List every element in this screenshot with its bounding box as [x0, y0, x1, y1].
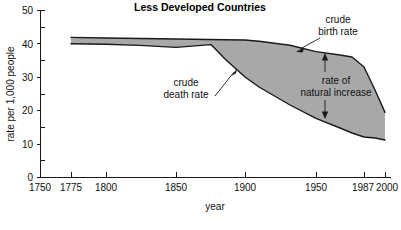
x-tick-label-1900: 1900: [234, 182, 257, 193]
x-tick-label-1800: 1800: [95, 182, 118, 193]
x-tick-label-1775: 1775: [60, 182, 83, 193]
crude-death-rate-label-line2: death rate: [163, 89, 208, 100]
y-tick-label-50: 50: [22, 5, 34, 16]
y-tick-label-10: 10: [22, 139, 34, 150]
less-developed-countries-chart: 0 10 20 30 40 50 1750 1775 1800 1850 190…: [0, 0, 401, 230]
rate-of-natural-increase-label-line1: rate of: [322, 75, 351, 86]
y-tick-label-20: 20: [22, 105, 34, 116]
y-tick-label-40: 40: [22, 39, 34, 50]
crude-birth-rate-label-line1: crude: [325, 14, 350, 25]
y-axis-title: rate per 1,000 people: [5, 46, 16, 142]
x-tick-label-1750: 1750: [29, 182, 52, 193]
x-tick-label-1987: 1987: [352, 182, 375, 193]
chart-title: Less Developed Countries: [134, 1, 266, 13]
rate-of-natural-increase-label-line2: natural increase: [300, 87, 372, 98]
crude-death-rate-label-line1: crude: [173, 77, 198, 88]
crude-birth-rate-label-line2: birth rate: [318, 26, 358, 37]
x-tick-label-1950: 1950: [305, 182, 328, 193]
x-tick-label-2000: 2000: [376, 182, 399, 193]
chart-figure: 0 10 20 30 40 50 1750 1775 1800 1850 190…: [0, 0, 401, 230]
y-tick-label-30: 30: [22, 72, 34, 83]
x-tick-label-1850: 1850: [165, 182, 188, 193]
x-axis-title: year: [205, 201, 225, 212]
